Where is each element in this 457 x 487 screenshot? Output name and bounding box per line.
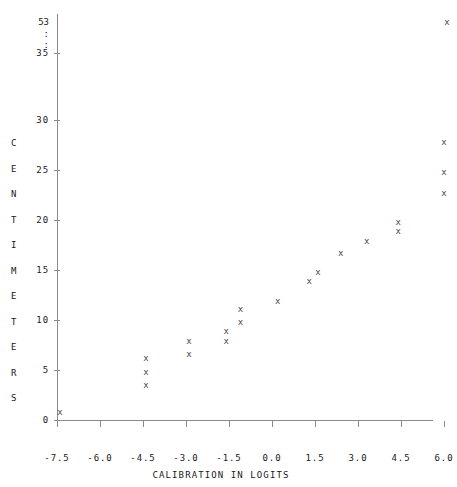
- y-tick: [54, 53, 60, 54]
- data-point: x: [440, 189, 449, 198]
- y-axis-title-letter: E: [11, 292, 21, 301]
- x-tick: [100, 421, 101, 427]
- data-point: x: [141, 368, 150, 377]
- data-point: x: [141, 381, 150, 390]
- x-tick-label: 1.5: [295, 454, 335, 463]
- y-tick-label: 10: [27, 316, 49, 325]
- y-tick-label: 20: [27, 216, 49, 225]
- x-tick: [358, 421, 359, 427]
- data-point: x: [394, 227, 403, 236]
- x-tick: [186, 421, 187, 427]
- y-axis-title-letter: I: [11, 241, 21, 250]
- y-tick-label: 30: [27, 116, 49, 125]
- data-point: x: [273, 297, 282, 306]
- data-point: x: [440, 138, 449, 147]
- y-axis-title-letter: T: [11, 318, 21, 327]
- y-tick-label: 25: [27, 166, 49, 175]
- x-axis-title: CALIBRATION IN LOGITS: [0, 471, 442, 480]
- data-point: x: [442, 18, 451, 27]
- x-tick-label: 0.0: [252, 454, 292, 463]
- x-tick-label: 6.0: [424, 454, 457, 463]
- data-point: x: [440, 168, 449, 177]
- x-tick: [272, 421, 273, 427]
- y-tick: [54, 270, 60, 271]
- x-tick: [229, 421, 230, 427]
- y-tick: [54, 320, 60, 321]
- y-tick: [54, 170, 60, 171]
- data-point: x: [141, 354, 150, 363]
- y-axis-line: [57, 14, 58, 421]
- y-axis-title-letter: E: [11, 165, 21, 174]
- y-tick: [54, 220, 60, 221]
- data-point: x: [236, 318, 245, 327]
- x-tick-label: -3.0: [166, 454, 206, 463]
- y-axis-title-letter: N: [11, 190, 21, 199]
- y-axis-title-letter: S: [11, 394, 21, 403]
- x-tick-label: -1.5: [209, 454, 249, 463]
- x-tick: [57, 421, 58, 427]
- data-point: x: [222, 337, 231, 346]
- data-point: x: [362, 237, 371, 246]
- y-tick-label: 0: [27, 416, 49, 425]
- y-tick: [54, 370, 60, 371]
- data-point: x: [313, 268, 322, 277]
- data-point: x: [55, 408, 64, 417]
- y-tick-label: 15: [27, 266, 49, 275]
- y-tick-label: 5: [27, 366, 49, 375]
- x-tick-label: 4.5: [381, 454, 421, 463]
- y-axis-title-letter: C: [11, 139, 21, 148]
- data-point: x: [336, 249, 345, 258]
- y-axis-title-letter: T: [11, 216, 21, 225]
- x-tick: [401, 421, 402, 427]
- y-axis-title-letter: R: [11, 369, 21, 378]
- x-tick: [315, 421, 316, 427]
- y-axis-break-symbol: :: [27, 30, 49, 39]
- data-point: x: [184, 350, 193, 359]
- y-axis-title-letter: M: [11, 267, 21, 276]
- data-point: x: [236, 305, 245, 314]
- x-tick: [444, 421, 445, 427]
- x-tick-label: -7.5: [37, 454, 77, 463]
- data-point: x: [184, 337, 193, 346]
- x-axis-line: [57, 420, 433, 421]
- x-tick-label: -6.0: [80, 454, 120, 463]
- y-tick-label: 35: [27, 49, 49, 58]
- y-axis-title-letter: E: [11, 343, 21, 352]
- x-tick-label: 3.0: [338, 454, 378, 463]
- y-tick: [54, 120, 60, 121]
- x-tick: [143, 421, 144, 427]
- y-axis-top-label: 53: [27, 18, 49, 27]
- x-tick-label: -4.5: [123, 454, 163, 463]
- data-point: x: [222, 327, 231, 336]
- y-axis-break-symbol: :: [27, 41, 49, 50]
- data-point: x: [305, 277, 314, 286]
